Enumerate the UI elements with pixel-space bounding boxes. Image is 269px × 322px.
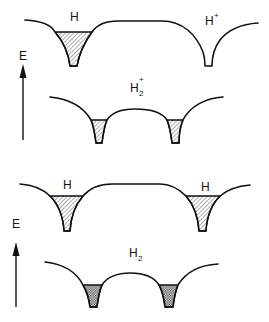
lower-system-h2: H 2 (45, 246, 218, 307)
axis-label-e: E (19, 49, 27, 63)
label-hplus: H (205, 14, 214, 28)
potential-curve-h-h (20, 184, 250, 231)
label-h2plus-subscript: 2 (139, 89, 144, 98)
axis-label-e: E (12, 217, 20, 231)
label-h2plus-charge: + (139, 75, 144, 84)
energy-axis-bottom: E (12, 217, 20, 307)
label-hplus-charge: + (214, 11, 219, 20)
label-h2plus: H (130, 81, 139, 95)
label-h2-subscript: 2 (138, 254, 143, 263)
label-h-right: H (201, 180, 210, 194)
energy-axis-top: E (19, 49, 27, 140)
upper-system-h-hplus: H H + (25, 10, 258, 66)
potential-curve-h-hplus (25, 20, 258, 66)
well-fill-h (55, 32, 92, 66)
label-h: H (70, 10, 79, 24)
arrow-up-icon (20, 64, 27, 78)
lower-system-h2plus: H + 2 (50, 75, 223, 143)
top-panel: E H H + H + 2 (19, 10, 258, 143)
label-h2: H (129, 246, 138, 260)
upper-system-h-h: H H (20, 178, 250, 231)
label-h-left: H (63, 178, 72, 192)
potential-curve-h2plus (50, 97, 223, 143)
energy-well-diagram: E H H + H + 2 E (0, 0, 269, 322)
bottom-panel: E H H H 2 (12, 178, 250, 307)
potential-curve-h2 (45, 262, 218, 307)
arrow-up-icon (13, 242, 20, 256)
